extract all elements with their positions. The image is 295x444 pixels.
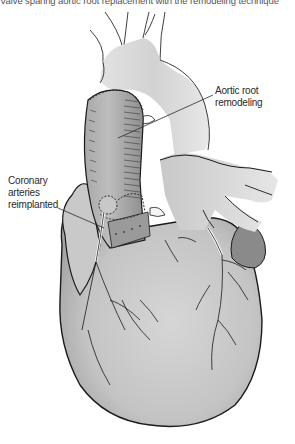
heart-illustration (0, 0, 295, 444)
label-line: remodeling (215, 97, 262, 109)
left-atrial-appendage (231, 225, 266, 268)
label-line: Aortic root (215, 85, 262, 97)
coronary-button (99, 196, 117, 214)
label-coronary-arteries-reimplanted: Coronary arteries reimplanted (8, 175, 58, 211)
label-line: arteries (8, 187, 58, 199)
label-line: reimplanted (8, 199, 58, 211)
label-aortic-root-remodeling: Aortic root remodeling (215, 85, 262, 109)
label-line: Coronary (8, 175, 58, 187)
